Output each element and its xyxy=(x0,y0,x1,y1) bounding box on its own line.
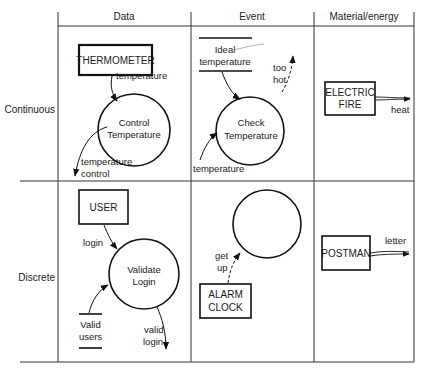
material-flow-heat-line2 xyxy=(375,99,410,100)
process-check-temperature-line1: Check xyxy=(238,117,265,128)
dfd-classification-grid: Data Event Material/energy Continuous Di… xyxy=(0,0,423,371)
cell-continuous-data: THERMOMETER temperature Control Temperat… xyxy=(75,45,170,179)
process-control-temperature-line2: Temperature xyxy=(107,129,160,140)
flow-label-temperature-in: temperature xyxy=(193,163,244,174)
store-annotation-stroke xyxy=(234,44,264,50)
process-validate-login-line1: Validate xyxy=(127,264,161,275)
row-header-discrete: Discrete xyxy=(18,272,55,283)
row-header-continuous: Continuous xyxy=(4,104,55,115)
terminator-postman-label: POSTMAN xyxy=(321,248,370,259)
event-label-get-up-line2: up xyxy=(217,262,228,273)
event-label-get-up-line1: get xyxy=(215,250,229,261)
material-label-letter: letter xyxy=(385,235,406,246)
process-check-temperature-line2: Temperature xyxy=(224,130,277,141)
column-header-data: Data xyxy=(113,11,135,22)
material-flow-heat-line1 xyxy=(375,97,410,98)
flow-arrow-login xyxy=(104,225,117,249)
cell-continuous-material: ELECTRIC FIRE heat xyxy=(325,82,410,115)
flow-arrow-temperature-in xyxy=(200,133,217,160)
store-ideal-temperature-line1: Ideal xyxy=(215,44,236,55)
process-validate-login-line2: Login xyxy=(132,276,155,287)
store-ideal-temperature-line2: temperature xyxy=(199,56,250,67)
flow-label-valid-login-line1: valid xyxy=(144,324,164,335)
material-flow-letter-line2 xyxy=(370,254,409,256)
flow-label-temperature: temperature xyxy=(116,70,167,81)
cell-discrete-event: get up ALARM CLOCK xyxy=(200,190,301,318)
store-valid-users-line2: users xyxy=(79,331,102,342)
cell-continuous-event: Ideal temperature Check Temperature too … xyxy=(193,38,293,174)
flow-label-valid-login-line2: login xyxy=(143,336,163,347)
cell-discrete-data: USER login Validate Login Valid users va… xyxy=(79,190,179,349)
event-arrow-get-up xyxy=(228,253,240,283)
column-header-event: Event xyxy=(239,11,265,22)
flow-label-temperature-control-line2: control xyxy=(81,168,110,179)
column-header-material: Material/energy xyxy=(330,11,399,22)
cell-discrete-material: POSTMAN letter xyxy=(321,235,409,270)
process-unnamed xyxy=(233,190,301,258)
process-control-temperature-line1: Control xyxy=(119,117,150,128)
flow-arrow-ideal-temperature xyxy=(222,72,240,99)
terminator-alarm-clock-line1: ALARM xyxy=(208,289,242,300)
event-label-too-hot-line2: hot xyxy=(273,74,287,85)
event-label-too-hot-line1: too xyxy=(273,62,286,73)
flow-label-login: login xyxy=(83,237,103,248)
terminator-thermometer-label: THERMOMETER xyxy=(76,55,154,66)
terminator-alarm-clock-line2: CLOCK xyxy=(208,302,243,313)
terminator-electric-fire-line2: FIRE xyxy=(339,99,362,110)
terminator-user-label: USER xyxy=(90,202,118,213)
material-label-heat: heat xyxy=(391,104,410,115)
store-valid-users-line1: Valid xyxy=(80,319,100,330)
flow-label-temperature-control-line1: temperature xyxy=(81,156,132,167)
flow-arrow-valid-users xyxy=(89,285,108,313)
material-flow-letter-line1 xyxy=(370,251,409,253)
terminator-electric-fire-line1: ELECTRIC xyxy=(325,87,374,98)
